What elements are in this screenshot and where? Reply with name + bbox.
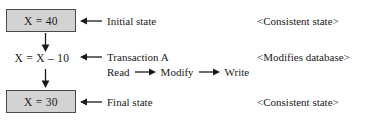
arrow-down-icon xyxy=(41,69,50,88)
callout-transaction-label: Transaction A xyxy=(107,51,169,63)
arrow-left-icon xyxy=(80,16,102,26)
arrow-right-icon xyxy=(199,67,220,77)
step-modify-label: Modify xyxy=(161,66,194,78)
initial-state-value: X = 40 xyxy=(24,15,58,27)
arrow-down-icon xyxy=(41,33,50,52)
step-read-label: Read xyxy=(107,66,130,78)
callout-final-state-label: Final state xyxy=(107,96,153,108)
read-modify-write-sequence: Read Modify Write xyxy=(107,66,249,78)
callout-initial-state-label: Initial state xyxy=(107,15,156,27)
final-state-value: X = 30 xyxy=(24,96,58,108)
arrow-right-icon xyxy=(135,67,156,77)
arrow-left-icon xyxy=(80,52,102,62)
annotation-bottom: <Consistent state> xyxy=(257,96,339,108)
operation-expression: X = X – 10 xyxy=(6,52,78,64)
initial-state-box: X = 40 xyxy=(6,9,76,32)
callout-initial-state: Initial state xyxy=(80,15,156,27)
step-write-label: Write xyxy=(225,66,250,78)
callout-final-state: Final state xyxy=(80,96,153,108)
final-state-box: X = 30 xyxy=(6,90,76,113)
callout-transaction: Transaction A xyxy=(80,51,169,63)
annotation-middle: <Modifies database> xyxy=(257,51,350,63)
transaction-state-diagram: X = 40 X = X – 10 X = 30 Initial state T… xyxy=(0,0,375,121)
operation-expression-text: X = X – 10 xyxy=(15,52,70,64)
arrow-left-icon xyxy=(80,97,102,107)
annotation-top: <Consistent state> xyxy=(257,15,339,27)
